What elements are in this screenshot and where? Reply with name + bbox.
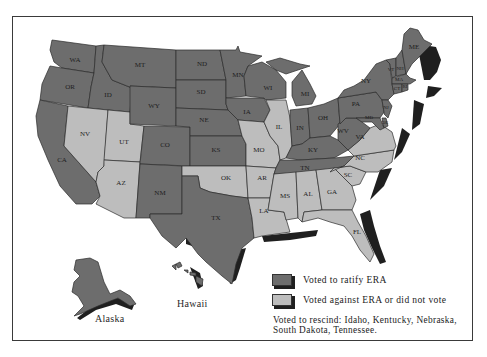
- svg-text:OR: OR: [65, 83, 75, 91]
- not-ratified-swatch: [272, 294, 293, 306]
- svg-text:IL: IL: [276, 123, 283, 131]
- svg-text:NV: NV: [80, 130, 90, 138]
- svg-text:PA: PA: [352, 100, 360, 108]
- rescind-note: Voted to rescind: Idaho, Kentucky, Nebra…: [273, 315, 478, 335]
- state-MI[interactable]: [292, 70, 316, 106]
- svg-text:MA: MA: [395, 77, 403, 82]
- svg-text:RI: RI: [403, 84, 408, 89]
- svg-text:AR: AR: [257, 174, 267, 182]
- legend: Voted to ratify ERA Voted against ERA or…: [272, 270, 472, 310]
- svg-text:CT: CT: [394, 86, 400, 91]
- svg-text:DE: DE: [382, 120, 389, 125]
- svg-text:WA: WA: [70, 56, 81, 64]
- svg-text:NJ: NJ: [383, 105, 389, 110]
- svg-text:TX: TX: [211, 214, 220, 222]
- svg-text:SC: SC: [344, 171, 353, 179]
- legend-item-not-ratified: Voted against ERA or did not vote: [272, 290, 472, 310]
- svg-text:ME: ME: [409, 43, 420, 51]
- svg-text:NC: NC: [355, 154, 365, 162]
- svg-text:MD: MD: [365, 115, 373, 120]
- hawaii-label: Hawaii: [177, 298, 208, 309]
- svg-text:CA: CA: [57, 156, 67, 164]
- svg-text:IA: IA: [243, 108, 250, 116]
- svg-text:CO: CO: [160, 141, 170, 149]
- svg-text:MO: MO: [253, 146, 264, 154]
- svg-text:TN: TN: [300, 164, 309, 172]
- svg-text:WY: WY: [148, 102, 160, 110]
- svg-text:WV: WV: [337, 127, 349, 135]
- svg-text:MT: MT: [135, 61, 146, 69]
- svg-text:OH: OH: [318, 114, 328, 122]
- state-AZ[interactable]: [96, 160, 140, 218]
- alaska-label: Alaska: [95, 313, 125, 324]
- svg-text:MS: MS: [280, 192, 290, 200]
- legend-item-ratified: Voted to ratify ERA: [272, 270, 472, 290]
- svg-text:MN: MN: [232, 71, 243, 79]
- svg-text:GA: GA: [327, 188, 337, 196]
- svg-text:LA: LA: [259, 207, 268, 215]
- svg-text:KY: KY: [308, 146, 318, 154]
- svg-text:NM: NM: [154, 189, 166, 197]
- svg-text:NY: NY: [361, 77, 371, 85]
- ratified-swatch: [272, 274, 293, 286]
- svg-text:FL: FL: [353, 228, 361, 236]
- legend-label-ratified: Voted to ratify ERA: [303, 275, 387, 285]
- svg-text:ID: ID: [104, 91, 111, 99]
- svg-text:NE: NE: [199, 116, 208, 124]
- svg-text:KS: KS: [212, 146, 221, 154]
- svg-text:IN: IN: [296, 124, 303, 132]
- svg-text:WI: WI: [264, 84, 274, 92]
- svg-text:VT: VT: [388, 67, 395, 72]
- svg-text:ND: ND: [197, 60, 207, 68]
- legend-label-not-ratified: Voted against ERA or did not vote: [303, 295, 446, 305]
- svg-text:UT: UT: [119, 138, 129, 146]
- svg-text:NH: NH: [396, 66, 404, 71]
- svg-text:MI: MI: [301, 90, 310, 98]
- svg-text:VA: VA: [355, 133, 364, 141]
- svg-text:AZ: AZ: [116, 179, 125, 187]
- svg-text:AL: AL: [303, 190, 312, 198]
- svg-text:OK: OK: [221, 174, 231, 182]
- svg-text:SD: SD: [197, 88, 206, 96]
